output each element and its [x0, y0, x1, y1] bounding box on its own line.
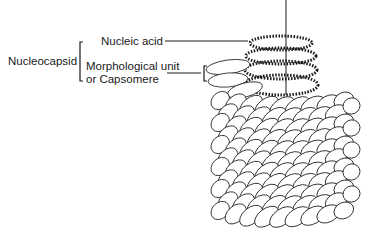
capsomere-label-line2: or Capsomere — [86, 73, 159, 86]
capsomere-petals — [207, 88, 362, 232]
nucleocapsid-label: Nucleocapsid — [8, 55, 77, 68]
capsomere-label-line1: Morphological unit — [86, 60, 179, 73]
nucleic-acid-label: Nucleic acid — [101, 35, 163, 48]
virus-diagram — [0, 0, 385, 233]
nucleocapsid-bracket — [80, 42, 83, 81]
